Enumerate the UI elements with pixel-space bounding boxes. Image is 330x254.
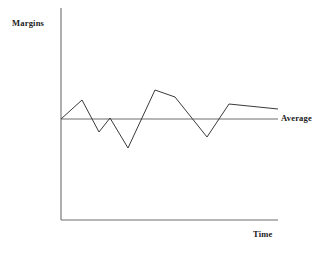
average-line-label: Average bbox=[281, 113, 312, 123]
line-chart-figure bbox=[0, 0, 330, 254]
y-axis-title: Margins bbox=[12, 18, 44, 28]
x-axis-title: Time bbox=[253, 229, 273, 239]
figure-background bbox=[0, 0, 330, 254]
chart-canvas: Margins Time Average bbox=[0, 0, 330, 254]
